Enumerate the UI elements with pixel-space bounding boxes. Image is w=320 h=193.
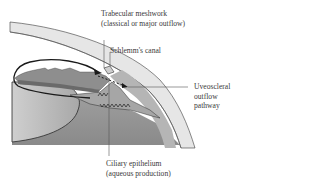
- trabecular-meshwork-structure: [104, 66, 114, 74]
- label-line: pathway: [194, 101, 230, 111]
- label-line: Ciliary epithelium: [106, 159, 171, 169]
- label-schlemms-canal: Schlemm's canal: [110, 46, 161, 56]
- label-ciliary-epithelium: Ciliary epithelium (aqueous production): [106, 159, 171, 178]
- label-line: outflow: [194, 92, 230, 102]
- label-line: Uveoscleral: [194, 82, 230, 92]
- label-line: (classical or major outflow): [101, 19, 185, 29]
- label-line: Trabecular meshwork: [101, 9, 185, 19]
- label-trabecular-meshwork: Trabecular meshwork (classical or major …: [101, 9, 185, 28]
- label-line: (aqueous production): [106, 169, 171, 179]
- label-uveoscleral-pathway: Uveoscleral outflow pathway: [194, 82, 230, 111]
- label-line: Schlemm's canal: [110, 46, 161, 56]
